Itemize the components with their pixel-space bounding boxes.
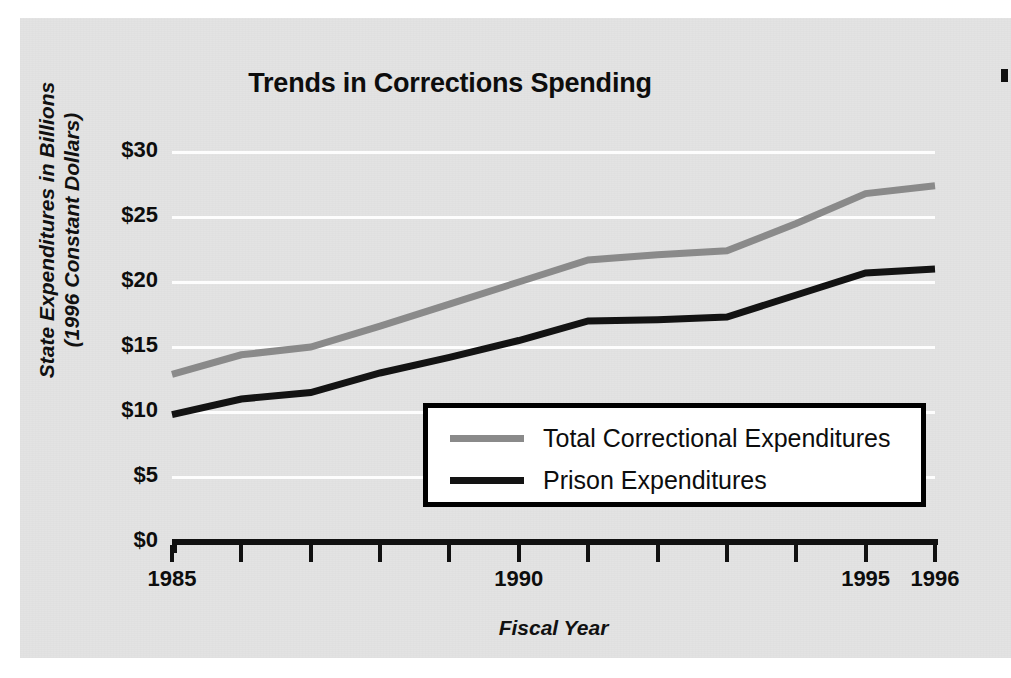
y-axis-tick-label: $5 xyxy=(78,462,158,488)
x-axis-tick xyxy=(864,545,868,562)
y-axis-tick-label: $30 xyxy=(78,137,158,163)
x-axis-tick xyxy=(656,545,660,562)
chart-legend: Total Correctional ExpendituresPrison Ex… xyxy=(423,403,926,507)
x-axis-line xyxy=(172,539,938,545)
chart-title: Trends in Corrections Spending xyxy=(0,68,900,99)
x-axis-tick xyxy=(309,545,313,562)
y-axis-tick-label: $0 xyxy=(78,527,158,553)
y-axis-tick-label: $10 xyxy=(78,397,158,423)
x-axis-tick-label: 1985 xyxy=(127,566,217,592)
legend-color-swatch xyxy=(450,435,524,442)
page-corner-mark xyxy=(1001,69,1008,82)
x-axis-tick xyxy=(586,545,590,562)
series-line xyxy=(172,269,935,415)
x-axis-tick xyxy=(239,545,243,562)
y-axis-tick-labels: $0$5$10$15$20$25$30 xyxy=(78,152,158,542)
legend-label: Total Correctional Expenditures xyxy=(543,424,890,453)
y-axis-tick-label: $25 xyxy=(78,202,158,228)
y-axis-tick-label: $15 xyxy=(78,332,158,358)
x-axis-tick-label: 1990 xyxy=(474,566,564,592)
x-axis-tick xyxy=(794,545,798,562)
x-axis-tick xyxy=(170,545,174,562)
x-axis-tick xyxy=(447,545,451,562)
legend-item: Total Correctional Expenditures xyxy=(450,424,890,453)
y-axis-title-line-1: State Expenditures in Billions xyxy=(35,82,60,378)
legend-color-swatch xyxy=(450,477,524,484)
x-axis-tick-label: 1996 xyxy=(890,566,980,592)
series-line xyxy=(172,186,935,374)
chart-figure: Trends in Corrections Spending State Exp… xyxy=(0,0,1011,678)
x-axis-tick xyxy=(933,545,937,562)
y-axis-tick-label: $20 xyxy=(78,267,158,293)
x-axis-title: Fiscal Year xyxy=(172,616,935,640)
x-axis-tick xyxy=(517,545,521,562)
x-axis-tick xyxy=(725,545,729,562)
legend-label: Prison Expenditures xyxy=(543,466,767,495)
legend-item: Prison Expenditures xyxy=(450,466,767,495)
x-axis-tick xyxy=(378,545,382,562)
